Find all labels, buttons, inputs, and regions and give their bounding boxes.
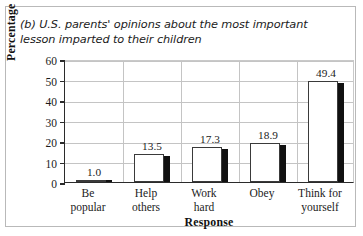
category-divider	[181, 61, 182, 182]
x-axis-tick-label-line: Help	[117, 187, 175, 201]
y-axis-tick-label: 20	[46, 137, 58, 149]
bar-value-label: 18.9	[258, 129, 278, 141]
bar-value-label: 17.3	[200, 133, 220, 145]
bar[interactable]: 13.5	[134, 61, 170, 182]
bar-shadow	[338, 83, 344, 182]
y-axis-tick	[60, 60, 65, 61]
y-axis-tick	[60, 163, 65, 164]
x-axis-tick-label-line: Work	[175, 187, 233, 201]
bar-body	[192, 147, 222, 182]
x-axis-tick-label: Obey	[233, 187, 291, 201]
bar-value-label: 49.4	[316, 67, 336, 79]
chart-title: (b) U.S. parents' opinions about the mos…	[20, 18, 345, 47]
x-axis-tick-label-line: hard	[175, 201, 233, 215]
y-axis-tick	[60, 122, 65, 123]
y-axis-title: Percentage	[4, 4, 19, 61]
category-divider	[297, 61, 298, 182]
x-axis-title: Response	[64, 215, 354, 230]
x-axis-tick-label-line: others	[117, 201, 175, 215]
y-axis-tick-label: 30	[46, 117, 58, 129]
bar-body	[308, 81, 338, 182]
bar[interactable]: 17.3	[192, 61, 228, 182]
x-axis-tick-label-line: Be	[59, 187, 117, 201]
bar-value-label: 1.0	[87, 166, 101, 178]
y-axis-tick	[60, 142, 65, 143]
y-axis-tick-label: 40	[46, 96, 58, 108]
y-axis-tick	[60, 183, 65, 184]
plot-area: 01020304050601.013.517.318.949.4	[64, 60, 354, 183]
bar-body	[76, 180, 106, 182]
x-axis-tick-label: Helpothers	[117, 187, 175, 214]
x-axis-tick-label: Workhard	[175, 187, 233, 214]
bar-shadow	[222, 149, 228, 182]
x-axis-tick-label-line: Think for	[291, 187, 349, 201]
bar-body	[134, 154, 164, 182]
x-axis-tick-label-line: yourself	[291, 201, 349, 215]
x-axis-tick-label: Bepopular	[59, 187, 117, 214]
y-axis-tick-label: 50	[46, 76, 58, 88]
bar-shadow	[164, 156, 170, 182]
x-axis-tick-label-line: Obey	[233, 187, 291, 201]
y-axis-tick-label: 0	[51, 178, 57, 190]
y-axis-tick	[60, 81, 65, 82]
y-axis-tick-label: 60	[46, 55, 58, 67]
y-axis-tick	[60, 101, 65, 102]
x-axis-tick-label-line: popular	[59, 201, 117, 215]
figure: (b) U.S. parents' opinions about the mos…	[0, 0, 363, 236]
bar-shadow	[280, 145, 286, 182]
category-divider	[239, 61, 240, 182]
y-axis-tick-label: 10	[46, 158, 58, 170]
bar-shadow	[106, 180, 112, 182]
bar-value-label: 13.5	[142, 140, 162, 152]
figure-frame: (b) U.S. parents' opinions about the mos…	[5, 6, 356, 227]
x-axis-tick-label: Think foryourself	[291, 187, 349, 214]
bar[interactable]: 1.0	[76, 61, 112, 182]
category-divider	[123, 61, 124, 182]
bar-body	[250, 143, 280, 182]
bar[interactable]: 18.9	[250, 61, 286, 182]
bar[interactable]: 49.4	[308, 61, 344, 182]
